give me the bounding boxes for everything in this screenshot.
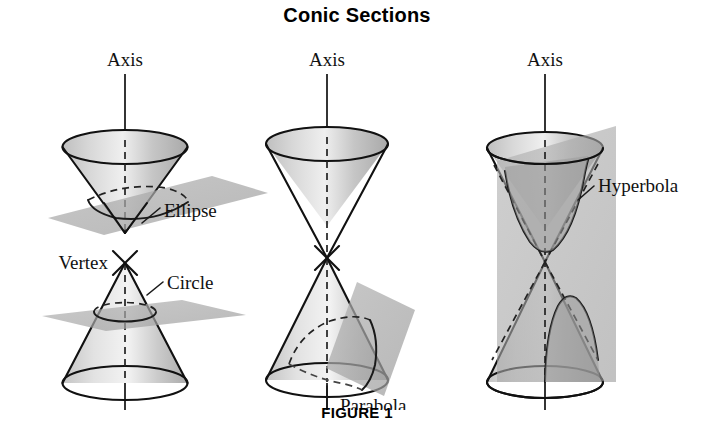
figure-page: Conic Sections: [0, 0, 714, 439]
panel-ellipse-circle: Axis Ellipse Vertex Circle: [42, 49, 268, 410]
axis-label-left: Axis: [107, 49, 143, 70]
figure-caption: FIGURE 1: [0, 404, 714, 421]
axis-label-middle: Axis: [309, 49, 345, 70]
page-title: Conic Sections: [0, 4, 714, 27]
vertex-label: Vertex: [58, 252, 108, 273]
panel-hyperbola: Axis Hyperbola: [487, 49, 679, 410]
circle-label: Circle: [167, 272, 213, 293]
hyperbola-label: Hyperbola: [598, 175, 679, 196]
conic-sections-diagram: Axis Ellipse Vertex Circle: [0, 30, 714, 410]
circle-leader: [147, 282, 163, 295]
axis-label-right: Axis: [527, 49, 563, 70]
panel-parabola: Axis Parabola: [266, 49, 415, 410]
ellipse-label: Ellipse: [164, 200, 217, 221]
